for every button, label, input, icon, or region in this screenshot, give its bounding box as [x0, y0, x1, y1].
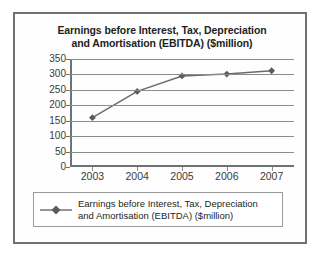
y-axis-tick-mark [66, 74, 70, 75]
y-axis-tick-label: 350 [32, 54, 66, 64]
legend-label: Earnings before Interest, Tax, Depreciat… [78, 198, 264, 221]
x-axis-tick-label: 2007 [260, 170, 283, 182]
gridline [70, 59, 294, 60]
y-axis-tick-mark [66, 59, 70, 60]
chart-title-line-2: and Amortisation (EBITDA) ($million) [21, 37, 303, 50]
plot-area [70, 59, 294, 167]
chart-legend: Earnings before Interest, Tax, Depreciat… [33, 192, 283, 227]
chart-canvas: Earnings before Interest, Tax, Depreciat… [15, 14, 305, 242]
chart-frame: Earnings before Interest, Tax, Depreciat… [13, 12, 307, 244]
x-axis-tick-label: 2005 [170, 170, 193, 182]
legend-label-line-2: and Amortisation (EBITDA) ($million) [78, 210, 258, 222]
y-axis-tick-label: 250 [32, 85, 66, 95]
x-axis-tick-label: 2003 [81, 170, 104, 182]
y-axis-tick-label: 100 [32, 131, 66, 141]
gridline [70, 90, 294, 91]
y-axis-tick-label: 300 [32, 69, 66, 79]
y-axis-tick-mark [66, 121, 70, 122]
gridline [70, 105, 294, 106]
gridline [70, 136, 294, 137]
legend-marker-icon [34, 193, 78, 226]
x-axis-tick-label: 2004 [126, 170, 149, 182]
gridline [70, 121, 294, 122]
x-axis-tick-labels: 20032004200520062007 [70, 170, 294, 186]
gridline [70, 152, 294, 153]
chart-title-line-1: Earnings before Interest, Tax, Depreciat… [21, 24, 303, 37]
x-axis-tick-label: 2006 [215, 170, 238, 182]
y-axis-tick-label: 200 [32, 100, 66, 110]
y-axis-tick-labels: 350300250200150100500 [32, 59, 66, 167]
y-axis-tick-mark [66, 167, 70, 168]
y-axis-tick-mark [66, 152, 70, 153]
gridline [70, 74, 294, 75]
y-axis-tick-label: 0 [32, 162, 66, 172]
legend-label-line-1: Earnings before Interest, Tax, Depreciat… [78, 198, 258, 210]
y-axis-tick-mark [66, 136, 70, 137]
y-axis-tick-mark [66, 90, 70, 91]
y-axis-tick-label: 50 [32, 147, 66, 157]
y-axis-tick-label: 150 [32, 116, 66, 126]
chart-title: Earnings before Interest, Tax, Depreciat… [21, 24, 303, 49]
data-point-marker [268, 67, 275, 74]
y-axis-tick-mark [66, 105, 70, 106]
plot-region: 350300250200150100500 200320042005200620… [32, 59, 294, 174]
